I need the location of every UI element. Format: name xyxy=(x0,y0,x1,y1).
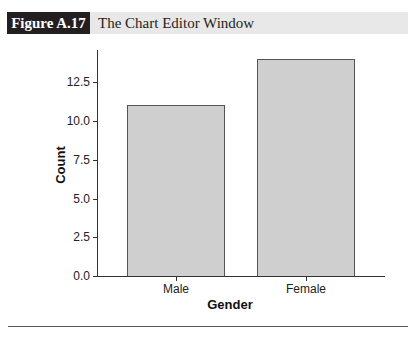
y-tick-label: 2.5 xyxy=(50,231,90,243)
y-tick-label: 7.5 xyxy=(50,154,90,166)
y-tick-label: 5.0 xyxy=(50,193,90,205)
y-tick xyxy=(93,160,97,161)
figure-header: Figure A.17 The Chart Editor Window xyxy=(7,12,408,34)
x-tick xyxy=(306,277,307,281)
figure-label: Figure A.17 xyxy=(7,12,90,34)
bar-male xyxy=(127,105,225,276)
y-tick xyxy=(93,237,97,238)
x-tick-label: Female xyxy=(266,282,346,296)
y-tick xyxy=(93,276,97,277)
x-axis-line xyxy=(97,276,385,277)
x-axis-title: Gender xyxy=(190,297,270,312)
x-tick xyxy=(176,277,177,281)
y-axis-line xyxy=(97,50,98,277)
figure-title: The Chart Editor Window xyxy=(98,12,254,34)
bar-female xyxy=(257,59,355,276)
y-tick-label: 10.0 xyxy=(50,115,90,127)
x-tick-label: Male xyxy=(136,282,216,296)
y-tick-label: 0.0 xyxy=(50,270,90,282)
y-tick-label: 12.5 xyxy=(50,76,90,88)
y-tick xyxy=(93,121,97,122)
y-tick xyxy=(93,199,97,200)
y-tick xyxy=(93,82,97,83)
bottom-rule xyxy=(8,326,408,327)
